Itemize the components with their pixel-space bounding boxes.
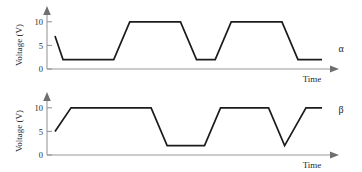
beta-series-label: β <box>338 104 343 115</box>
alpha-x-axis-arrowhead <box>330 65 339 72</box>
beta-yticklabel-0: 0 <box>39 150 43 160</box>
beta-x-axis-arrowhead <box>330 151 339 158</box>
beta-chart: 10 5 0 Voltage (V) Time β <box>0 86 362 172</box>
waveform-figure: 10 5 0 Voltage (V) Time α 10 5 0 <box>0 0 362 172</box>
alpha-chart-svg: 10 5 0 Voltage (V) Time α <box>0 0 362 86</box>
beta-y-axis-arrowhead <box>43 92 51 101</box>
beta-x-axis-title: Time <box>303 160 322 170</box>
alpha-yticklabel-10: 10 <box>35 17 44 27</box>
alpha-x-axis-title: Time <box>303 74 322 84</box>
alpha-series-label: α <box>338 43 344 54</box>
alpha-y-axis-arrowhead <box>43 6 51 15</box>
alpha-trace <box>55 22 322 60</box>
alpha-yticklabel-5: 5 <box>39 41 43 51</box>
alpha-yticklabel-0: 0 <box>39 64 43 74</box>
alpha-chart: 10 5 0 Voltage (V) Time α <box>0 0 362 86</box>
alpha-y-axis-title: Voltage (V) <box>14 24 24 66</box>
beta-y-axis-title: Voltage (V) <box>14 110 24 152</box>
beta-yticklabel-10: 10 <box>35 103 44 113</box>
beta-chart-svg: 10 5 0 Voltage (V) Time β <box>0 86 362 172</box>
beta-trace <box>55 108 322 146</box>
beta-yticklabel-5: 5 <box>39 127 43 137</box>
